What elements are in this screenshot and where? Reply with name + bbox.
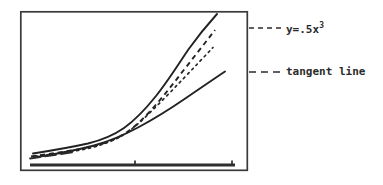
tangent-label: tangent line xyxy=(286,66,365,77)
plot-frame xyxy=(21,12,248,171)
dashed-curve-lower xyxy=(35,48,213,157)
cubic-label-exponent: 3 xyxy=(319,21,324,30)
cubic-label: y=.5x3 xyxy=(286,22,324,35)
figure-svg xyxy=(0,0,383,185)
dashed-curve xyxy=(31,30,215,157)
cubic-curve xyxy=(33,14,217,154)
tangent-curve xyxy=(37,72,225,158)
figure-canvas: y=.5x3 tangent line xyxy=(0,0,383,185)
cubic-label-text: y=.5x xyxy=(286,23,319,36)
